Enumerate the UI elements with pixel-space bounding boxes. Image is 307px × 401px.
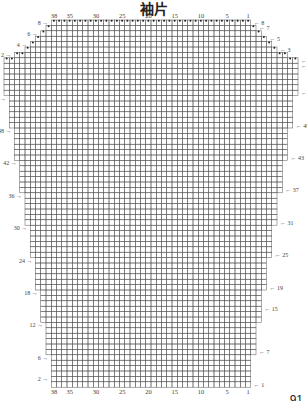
svg-text:4 →: 4 → [17,42,28,48]
svg-text:← 19: ← 19 [270,285,284,291]
svg-text:48 →: 48 → [0,128,12,134]
svg-text:← 3: ← 3 [280,47,291,53]
svg-text:1: 1 [247,12,250,19]
svg-text:← 49: ← 49 [296,123,307,129]
svg-text:8 →: 8 → [38,20,49,26]
svg-text:54 →: 54 → [0,96,6,102]
svg-text:24 →: 24 → [19,258,33,264]
svg-text:5: 5 [226,388,229,395]
svg-text:25: 25 [119,388,126,395]
svg-text:18 →: 18 → [24,290,38,296]
svg-text:30: 30 [93,388,100,395]
svg-text:20: 20 [145,388,152,395]
svg-text:38: 38 [51,12,58,19]
svg-text:30 →: 30 → [14,225,28,231]
svg-text:10: 10 [198,12,205,19]
svg-text:← 55: ← 55 [301,90,307,96]
svg-text:← 1: ← 1 [254,382,265,388]
svg-text:35: 35 [66,388,73,395]
svg-text:15: 15 [171,12,178,19]
svg-text:15: 15 [171,388,178,395]
svg-text:← 60: ← 60 [301,63,307,69]
svg-text:← 43: ← 43 [291,155,305,161]
svg-text:36 →: 36 → [9,193,23,199]
svg-text:30: 30 [93,12,100,19]
svg-text:5: 5 [226,12,229,19]
page-number: 91 [290,393,303,401]
svg-text:← 7: ← 7 [259,25,270,31]
svg-text:← 25: ← 25 [275,252,289,258]
svg-text:25: 25 [119,12,126,19]
svg-text:6 →: 6 → [27,31,38,37]
svg-text:← 15: ← 15 [264,306,278,312]
svg-text:← 31: ← 31 [280,220,294,226]
svg-text:12 →: 12 → [30,322,44,328]
svg-text:← 7: ← 7 [259,349,270,355]
svg-text:2 →: 2 → [1,52,12,58]
svg-text:38: 38 [51,388,58,395]
svg-text:35: 35 [66,12,73,19]
svg-text:1: 1 [247,388,250,395]
svg-text:10: 10 [198,388,205,395]
svg-text:← 37: ← 37 [285,187,299,193]
svg-text:42 →: 42 → [3,160,17,166]
svg-text:← 5: ← 5 [270,36,281,42]
knitting-chart: 38383535303025252020151510105511← 88 →← … [0,0,307,401]
svg-text:6 →: 6 → [38,355,49,361]
svg-text:2 →: 2 → [38,376,49,382]
svg-text:20: 20 [145,12,152,19]
